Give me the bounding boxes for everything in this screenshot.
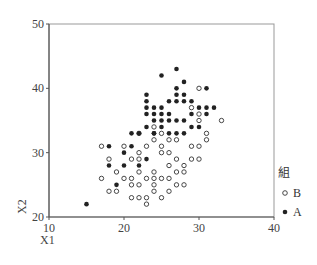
x-axis-title: X1 (40, 233, 55, 247)
data-point-b (204, 138, 208, 142)
legend-title: 組 (278, 166, 290, 180)
data-point-b (152, 125, 156, 129)
data-point-a (204, 105, 209, 110)
legend-label-a: A (293, 205, 302, 219)
data-point-b (144, 176, 148, 180)
data-point-a (114, 183, 119, 188)
data-point-b (167, 176, 171, 180)
data-point-a (167, 112, 172, 117)
data-point-a (129, 144, 134, 149)
data-point-a (144, 157, 149, 162)
data-points (84, 67, 224, 207)
data-point-b (144, 196, 148, 200)
data-point-a (137, 163, 142, 168)
data-point-b (197, 144, 201, 148)
data-point-a (189, 125, 194, 130)
data-point-a (182, 131, 187, 136)
data-point-a (174, 67, 179, 72)
data-point-a (182, 99, 187, 104)
data-point-b (129, 196, 133, 200)
data-point-a (152, 131, 157, 136)
x-tick-label: 40 (268, 221, 280, 235)
data-point-a (174, 118, 179, 123)
data-point-b (137, 157, 141, 161)
data-point-b (159, 144, 163, 148)
data-point-a (167, 118, 172, 123)
data-point-b (137, 196, 141, 200)
data-point-a (189, 112, 194, 117)
data-point-a (182, 80, 187, 85)
y-axis-ticks: 20304050 (32, 17, 49, 224)
data-point-b (167, 150, 171, 154)
data-point-b (159, 176, 163, 180)
data-point-a (197, 105, 202, 110)
data-point-b (152, 176, 156, 180)
data-point-b (152, 138, 156, 142)
data-point-a (144, 112, 149, 117)
data-point-b (174, 170, 178, 174)
y-axis-title: X2 (15, 199, 29, 214)
data-point-b (137, 170, 141, 174)
data-point-a (204, 86, 209, 91)
data-point-a (137, 131, 142, 136)
data-point-b (167, 189, 171, 193)
data-point-b (159, 196, 163, 200)
data-point-b (174, 157, 178, 161)
data-point-b (189, 144, 193, 148)
data-point-b (152, 189, 156, 193)
y-tick-label: 50 (32, 17, 44, 31)
data-point-b (197, 157, 201, 161)
data-point-b (129, 183, 133, 187)
data-point-b (182, 170, 186, 174)
data-point-b (159, 131, 163, 135)
data-point-a (144, 92, 149, 97)
data-point-b (159, 150, 163, 154)
open-circle-icon (283, 191, 288, 196)
data-point-b (197, 86, 201, 90)
data-point-a (197, 125, 202, 130)
data-point-a (159, 125, 164, 130)
filled-circle-icon (283, 210, 288, 215)
x-tick-label: 30 (193, 221, 205, 235)
data-point-a (144, 99, 149, 104)
data-point-a (84, 202, 89, 207)
data-point-b (189, 105, 193, 109)
data-point-b (99, 176, 103, 180)
data-point-a (144, 125, 149, 130)
data-point-b (107, 157, 111, 161)
data-point-b (122, 144, 126, 148)
data-point-b (182, 163, 186, 167)
data-point-b (197, 112, 201, 116)
data-point-b (152, 170, 156, 174)
scatter-chart: 20304050 10203040 X2 X1 組 B A (0, 0, 317, 265)
data-point-b (137, 183, 141, 187)
data-point-a (129, 131, 134, 136)
data-point-a (159, 73, 164, 78)
legend: 組 B A (278, 166, 302, 219)
data-point-a (159, 112, 164, 117)
data-point-b (107, 189, 111, 193)
y-tick-label: 30 (32, 146, 44, 160)
data-point-a (174, 92, 179, 97)
data-point-a (144, 105, 149, 110)
data-point-b (204, 131, 208, 135)
data-point-b (197, 118, 201, 122)
data-point-b (167, 163, 171, 167)
data-point-b (174, 183, 178, 187)
data-point-b (152, 183, 156, 187)
data-point-b (219, 118, 223, 122)
data-point-b (114, 170, 118, 174)
data-point-a (212, 105, 217, 110)
data-point-b (137, 150, 141, 154)
data-point-a (204, 112, 209, 117)
x-tick-label: 20 (118, 221, 130, 235)
data-point-b (129, 176, 133, 180)
data-point-a (152, 112, 157, 117)
data-point-b (144, 202, 148, 206)
data-point-b (174, 138, 178, 142)
data-point-a (189, 99, 194, 104)
data-point-a (167, 99, 172, 104)
x-axis-ticks: 10203040 (43, 217, 280, 235)
data-point-a (107, 163, 112, 168)
data-point-b (167, 138, 171, 142)
